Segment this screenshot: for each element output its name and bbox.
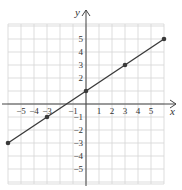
y-tick-label: 5 — [79, 34, 84, 44]
y-tick-label: −2 — [73, 125, 83, 135]
y-tick-label: 4 — [79, 47, 84, 57]
y-tick-label: −5 — [73, 164, 83, 174]
x-tick-label: 2 — [110, 106, 115, 116]
y-tick-label: −1 — [73, 112, 83, 122]
data-point — [45, 115, 50, 120]
axes — [2, 10, 176, 186]
data-point — [84, 89, 89, 94]
data-point — [6, 141, 11, 146]
y-axis-label: y — [74, 6, 80, 18]
x-tick-label: 4 — [136, 106, 141, 116]
x-tick-label: −4 — [29, 106, 39, 116]
x-tick-label: 3 — [123, 106, 128, 116]
y-tick-label: 3 — [79, 60, 84, 70]
y-tick-label: −4 — [73, 151, 83, 161]
y-tick-label: 2 — [79, 73, 84, 83]
data-point — [123, 63, 128, 68]
y-tick-label: −3 — [73, 138, 83, 148]
x-axis-label: x — [169, 105, 175, 117]
x-tick-label: 1 — [97, 106, 102, 116]
coordinate-plane: −5−4−3−1123455432−1−2−3−4−5 x y — [0, 0, 182, 190]
data-point — [162, 37, 167, 42]
x-tick-label: 5 — [149, 106, 154, 116]
x-tick-label: −5 — [16, 106, 26, 116]
